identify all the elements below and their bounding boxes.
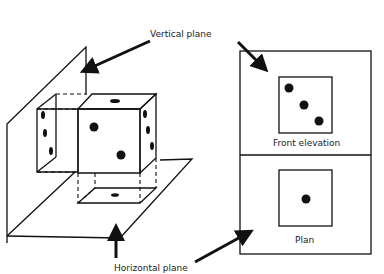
vertical-plane [7,47,86,243]
plan-view [279,170,332,226]
vertical-plane-label: Vertical plane [150,29,212,39]
orthographic-views-frame [240,51,371,254]
horizontal-plane [7,159,192,238]
front-elevation-label: Front elevation [273,138,340,148]
plan-label: Plan [295,235,314,245]
front-elevation-view [279,77,332,133]
horizontal-plane-label: Horizontal plane [114,263,188,273]
arrows [88,41,262,262]
die-cube [78,94,156,173]
orthographic-projection-diagram: Vertical plane Horizontal plane Front el… [0,0,384,274]
horizontal-projection [78,158,156,203]
